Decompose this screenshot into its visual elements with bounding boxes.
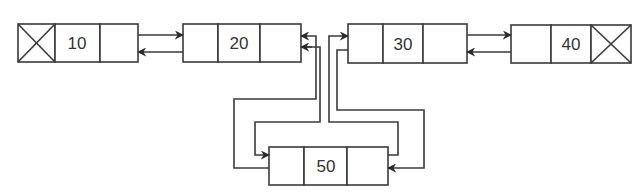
node-40: 40	[511, 25, 631, 63]
linked-list-diagram: 10 20 30 40 50	[0, 0, 643, 195]
prev-cell	[183, 24, 218, 62]
node-value: 20	[230, 34, 249, 53]
next-cell	[260, 24, 301, 62]
next-cell	[347, 147, 388, 185]
node-50: 50	[269, 147, 388, 185]
node-value: 50	[317, 157, 336, 176]
node-value: 30	[394, 35, 413, 54]
next-cell	[423, 24, 467, 63]
arrow-20-to-50	[255, 47, 320, 155]
node-value: 40	[562, 35, 581, 54]
node-value: 10	[68, 34, 87, 53]
next-cell	[100, 24, 138, 62]
prev-cell	[269, 147, 304, 185]
node-30: 30	[348, 24, 467, 63]
node-20: 20	[183, 24, 301, 62]
node-10: 10	[18, 24, 138, 62]
prev-cell	[348, 24, 383, 63]
prev-cell	[511, 25, 551, 63]
